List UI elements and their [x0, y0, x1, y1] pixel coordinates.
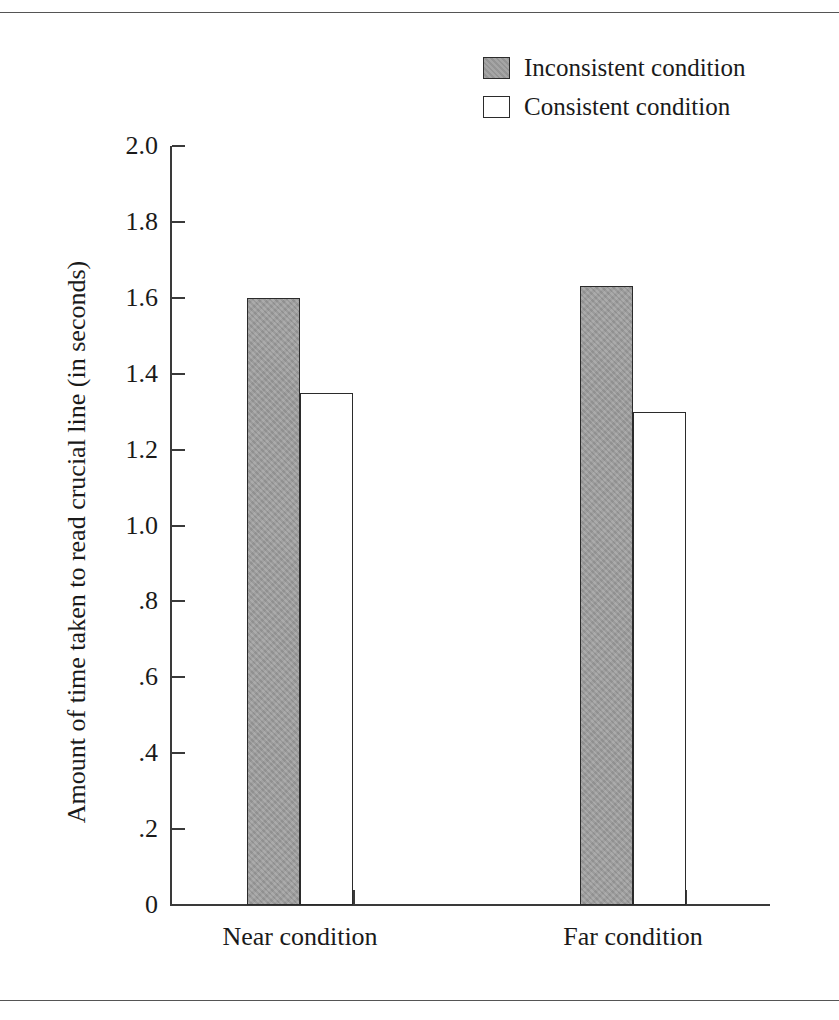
y-tick-mark — [172, 828, 185, 830]
y-tick-mark — [172, 525, 185, 527]
y-tick-mark — [172, 752, 185, 754]
bar-inconsistent — [247, 298, 300, 905]
x-tick-mark — [353, 890, 355, 904]
bar-consistent — [300, 393, 353, 905]
plot-area: 2.01.81.61.41.21.0.8.6.4.20 Near conditi… — [0, 0, 839, 1020]
y-tick-mark — [172, 600, 185, 602]
y-axis-title: Amount of time taken to read crucial lin… — [62, 162, 92, 922]
y-tick-mark — [172, 297, 185, 299]
y-tick-mark — [172, 676, 185, 678]
y-tick-mark — [172, 221, 185, 223]
y-tick-mark — [172, 904, 185, 906]
category-label: Far condition — [483, 922, 783, 952]
bar-inconsistent — [580, 286, 633, 905]
y-tick-mark — [172, 373, 185, 375]
category-label: Near condition — [150, 922, 450, 952]
bar-consistent — [633, 412, 686, 905]
figure-container: Inconsistent condition Consistent condit… — [0, 0, 839, 1020]
y-tick-mark — [172, 145, 185, 147]
y-tick-mark — [172, 449, 185, 451]
y-tick-label: 2.0 — [72, 133, 158, 159]
